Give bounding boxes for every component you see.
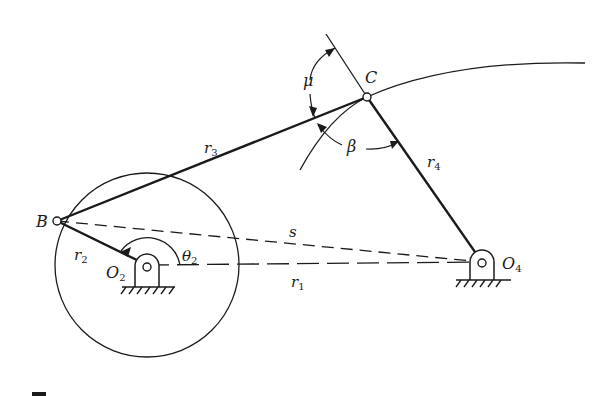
label-r3: r3 [204, 139, 218, 158]
label-r2: r2 [74, 246, 88, 265]
caption-fragment [32, 392, 46, 396]
label-mu: μ [303, 71, 313, 90]
rocker-path-arc [300, 63, 585, 170]
mu-arrowhead-bottom [309, 106, 317, 117]
four-bar-linkage-diagram: B C O2 O4 r1 r2 r3 r4 s θ2 μ β [0, 0, 606, 396]
rocker-r4 [367, 97, 482, 262]
label-r4: r4 [427, 153, 441, 172]
label-r1: r1 [291, 273, 305, 292]
mu-arrowhead-top [325, 48, 335, 57]
ground-pivot-o2 [121, 254, 175, 294]
rocker-extension-line [326, 34, 367, 97]
crank-r2 [57, 221, 147, 265]
diagonal-s-line [57, 221, 482, 262]
joint-c [363, 93, 371, 101]
label-c: C [365, 68, 377, 87]
coupler-r3 [57, 97, 367, 221]
label-s: s [289, 223, 297, 241]
label-b: B [35, 212, 48, 231]
label-o4: O4 [502, 254, 522, 274]
label-beta: β [346, 137, 356, 156]
label-o2: O2 [106, 263, 126, 283]
label-theta2: θ2 [182, 247, 197, 266]
joint-b [53, 217, 61, 225]
beta-arrowhead-right [390, 141, 399, 149]
